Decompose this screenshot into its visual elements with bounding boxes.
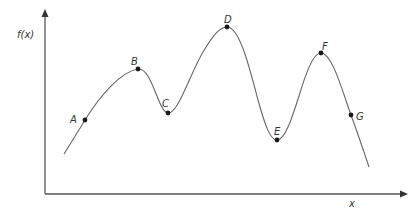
point-f-label: F — [322, 41, 328, 52]
point-e-label: E — [274, 126, 281, 137]
x-axis-label: x — [348, 198, 355, 209]
point-e-marker — [275, 138, 280, 143]
point-c-marker — [166, 111, 171, 116]
y-axis-arrow-icon — [42, 9, 49, 17]
point-g-label: G — [356, 111, 364, 122]
point-g-marker — [349, 113, 354, 118]
point-d-label: D — [224, 14, 232, 25]
x-axis-arrow-icon — [400, 191, 408, 198]
point-b-label: B — [131, 56, 138, 67]
y-axis-label: f(x) — [17, 29, 34, 40]
point-a-label: A — [69, 114, 77, 125]
point-c-label: C — [162, 98, 169, 109]
point-d-marker — [225, 25, 230, 30]
function-graph: f(x) x ABCDEFG — [0, 0, 419, 214]
point-a-marker — [83, 118, 88, 123]
point-b-marker — [136, 67, 141, 72]
